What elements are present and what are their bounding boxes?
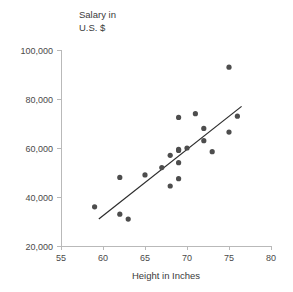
y-tick-label: 60,000 [25,144,53,154]
data-point [176,115,181,120]
y-axis-title-line1: Salary in [79,9,116,20]
x-tick-label: 60 [98,253,108,263]
y-axis-title: Salary in U.S. $ [79,9,116,33]
data-point [117,175,122,180]
data-point [159,165,164,170]
scatter-chart: Salary in U.S. $ 20,00040,00060,00080,00… [0,0,293,292]
x-axis-ticks: 556065707580 [56,246,276,263]
data-point [142,172,147,177]
data-point [193,111,198,116]
data-point [226,129,231,134]
y-axis-ticks: 20,00040,00060,00080,000100,000 [20,46,61,252]
data-points [92,65,240,222]
x-tick-label: 80 [266,253,276,263]
y-axis-title-line2: U.S. $ [79,22,106,33]
data-point [168,183,173,188]
regression-line [99,106,242,219]
y-tick-label: 100,000 [20,46,53,56]
x-tick-label: 75 [224,253,234,263]
data-point [226,65,231,70]
plot-area: Salary in U.S. $ 20,00040,00060,00080,00… [0,0,293,292]
x-tick-label: 65 [140,253,150,263]
data-point [176,147,181,152]
y-tick-label: 20,000 [25,242,53,252]
data-point [117,212,122,217]
data-point [201,138,206,143]
data-point [168,153,173,158]
data-point [126,216,131,221]
trend-line [99,106,242,219]
axes [61,50,271,246]
data-point [184,145,189,150]
y-tick-label: 40,000 [25,193,53,203]
x-tick-label: 55 [56,253,66,263]
y-tick-label: 80,000 [25,95,53,105]
data-point [176,176,181,181]
data-point [92,204,97,209]
x-axis-title: Height in Inches [132,270,200,281]
data-point [210,149,215,154]
x-tick-label: 70 [182,253,192,263]
data-point [235,114,240,119]
data-point [176,160,181,165]
data-point [201,126,206,131]
